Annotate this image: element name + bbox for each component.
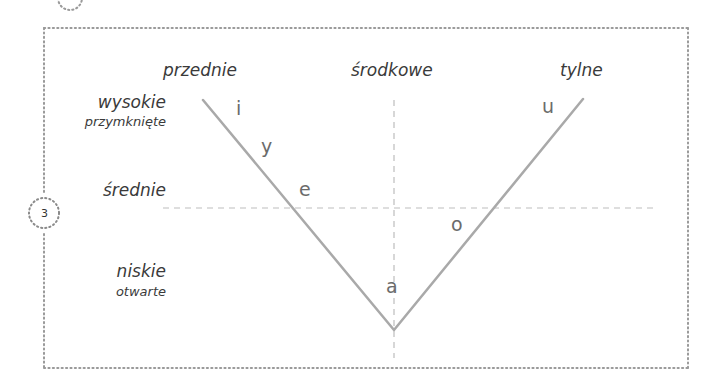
column-front-label: przednie: [163, 62, 237, 79]
row-high-label: wysokie: [85, 94, 166, 111]
row-low-sublabel: otwarte: [116, 285, 166, 298]
row-mid-label: średnie: [103, 182, 166, 199]
step-badge-number: 3: [41, 208, 48, 219]
previous-step-badge-fragment: [58, 0, 82, 10]
vowel-e: e: [299, 180, 311, 199]
column-back-label: tylne: [560, 62, 603, 79]
vowel-o: o: [451, 215, 463, 234]
row-high: wysokie przymknięte: [85, 94, 166, 128]
vowel-i: i: [236, 99, 241, 118]
vowel-u: u: [542, 97, 554, 116]
row-high-sublabel: przymknięte: [85, 115, 166, 128]
vowel-diagram: 3 przednie środkowe tylne wysokie przymk…: [0, 0, 708, 389]
row-mid: średnie: [103, 182, 166, 199]
row-low: niskie otwarte: [116, 263, 166, 298]
column-central-label: środkowe: [351, 62, 433, 79]
vowel-a: a: [386, 277, 398, 296]
row-low-label: niskie: [116, 263, 166, 280]
vowel-y: y: [261, 137, 272, 156]
